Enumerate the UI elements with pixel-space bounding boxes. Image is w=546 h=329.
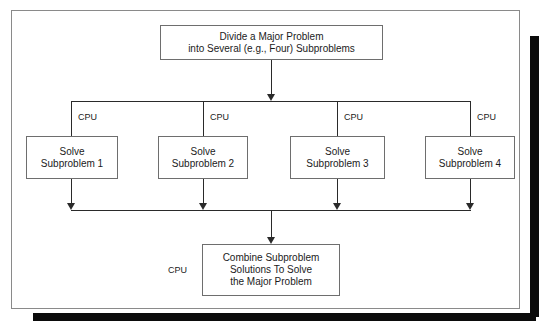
- merge-arrowhead-2-icon: [199, 203, 207, 210]
- box-sub-3-line-2: Subproblem 3: [306, 158, 368, 170]
- cpu-label-2: CPU: [210, 112, 229, 122]
- frame-drop-shadow-right: [530, 36, 539, 317]
- box-solve-subproblem-1: Solve Subproblem 1: [26, 136, 118, 179]
- box-solve-subproblem-3: Solve Subproblem 3: [290, 136, 385, 179]
- merge-stem-2: [203, 179, 204, 203]
- box-divide-major-problem: Divide a Major Problem into Several (e.g…: [160, 25, 383, 60]
- connector-top-arrowhead-icon: [267, 94, 275, 101]
- box-combine-line-1: Combine Subproblem: [223, 252, 320, 264]
- distribution-bar: [71, 101, 471, 102]
- box-sub-1-line-2: Subproblem 1: [41, 158, 103, 170]
- connector-top-stem: [271, 60, 272, 94]
- box-sub-1-line-1: Solve: [59, 146, 84, 158]
- distribution-drop-3: [337, 101, 338, 136]
- merge-stem-4: [470, 179, 471, 203]
- cpu-label-5: CPU: [168, 265, 187, 275]
- distribution-drop-2: [203, 101, 204, 136]
- merge-arrowhead-1-icon: [67, 203, 75, 210]
- box-sub-2-line-2: Subproblem 2: [172, 158, 234, 170]
- cpu-label-1: CPU: [78, 112, 97, 122]
- box-divide-line-1: Divide a Major Problem: [220, 31, 324, 43]
- distribution-drop-4: [470, 101, 471, 136]
- box-combine-line-2: Solutions To Solve: [230, 264, 312, 276]
- cpu-label-4: CPU: [477, 112, 496, 122]
- box-solve-subproblem-4: Solve Subproblem 4: [425, 136, 515, 179]
- box-sub-4-line-1: Solve: [457, 146, 482, 158]
- frame-drop-shadow-bottom: [33, 313, 536, 321]
- connector-bottom-arrowhead-icon: [267, 237, 275, 244]
- cpu-label-3: CPU: [344, 112, 363, 122]
- merge-stem-3: [337, 179, 338, 203]
- box-combine-subproblem-solutions: Combine Subproblem Solutions To Solve th…: [202, 244, 340, 296]
- box-sub-3-line-1: Solve: [325, 146, 350, 158]
- box-sub-4-line-2: Subproblem 4: [439, 158, 501, 170]
- box-solve-subproblem-2: Solve Subproblem 2: [158, 136, 248, 179]
- box-combine-line-3: the Major Problem: [230, 276, 312, 288]
- flowchart-figure: Divide a Major Problem into Several (e.g…: [0, 0, 546, 329]
- merge-stem-1: [71, 179, 72, 203]
- connector-bottom-stem: [271, 210, 272, 237]
- distribution-drop-1: [71, 101, 72, 136]
- box-sub-2-line-1: Solve: [190, 146, 215, 158]
- merge-arrowhead-3-icon: [333, 203, 341, 210]
- merge-arrowhead-4-icon: [466, 203, 474, 210]
- box-divide-line-2: into Several (e.g., Four) Subproblems: [188, 43, 355, 55]
